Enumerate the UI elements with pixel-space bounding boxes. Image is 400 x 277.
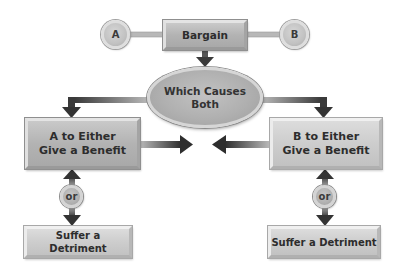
party-a-node: A <box>101 20 130 49</box>
bargain-label: Bargain <box>182 29 228 42</box>
arrow-ellipse-to-b-benefit <box>259 97 333 118</box>
party-b-node: B <box>280 20 309 49</box>
or-right-label: or <box>319 191 331 202</box>
arrow-or-left-down <box>63 207 81 226</box>
which-causes-line1: Which Causes <box>164 85 246 98</box>
b-detriment-label: Suffer a Detriment <box>271 236 376 249</box>
connector-bargain-b <box>245 32 282 37</box>
arrow-a-benefit-to-center <box>139 135 193 154</box>
a-give-benefit-node: A to Either Give a Benefit <box>25 118 140 169</box>
b-benefit-line2: Give a Benefit <box>282 144 369 158</box>
or-right-node: or <box>313 185 336 208</box>
a-benefit-line1: A to Either <box>39 130 126 144</box>
which-causes-line2: Both <box>164 98 246 111</box>
which-causes-both-node: Which Causes Both <box>147 67 263 128</box>
arrow-b-benefit-to-center <box>212 135 271 154</box>
a-benefit-line2: Give a Benefit <box>39 144 126 158</box>
arrow-or-right-down <box>316 207 334 226</box>
bargain-node: Bargain <box>163 20 247 50</box>
or-left-label: or <box>66 191 78 202</box>
a-suffer-detriment-node: Suffer a Detriment <box>24 226 132 258</box>
party-b-label: B <box>291 29 299 40</box>
b-suffer-detriment-node: Suffer a Detriment <box>268 226 380 258</box>
party-a-label: A <box>112 29 120 40</box>
b-give-benefit-node: B to Either Give a Benefit <box>270 118 382 169</box>
b-benefit-line1: B to Either <box>282 130 369 144</box>
or-left-node: or <box>60 185 83 208</box>
arrow-bargain-to-ellipse <box>196 50 214 67</box>
a-detriment-label: Suffer a Detriment <box>27 229 129 255</box>
connector-a-bargain <box>128 32 165 37</box>
arrow-ellipse-to-a-benefit <box>62 97 151 118</box>
